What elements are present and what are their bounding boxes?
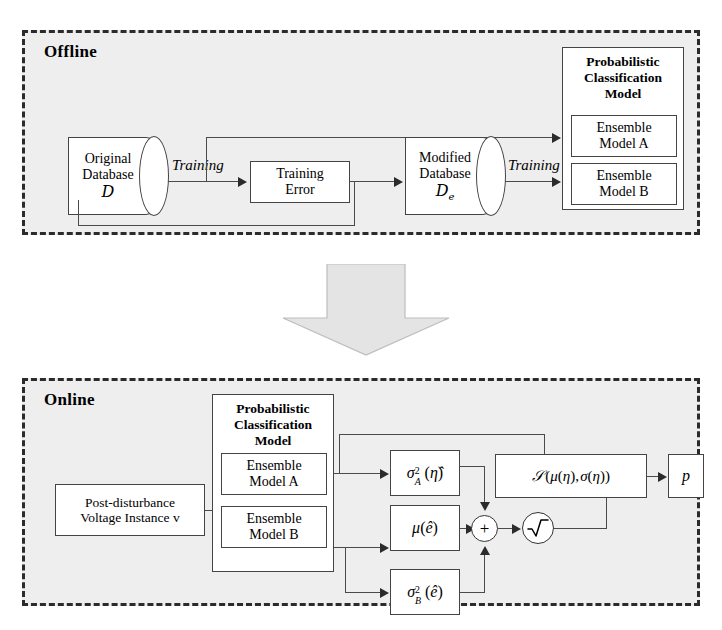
arrowhead-top-route-to-model-a	[552, 133, 561, 143]
stage-transition-arrow	[281, 264, 451, 356]
edge-label-training-1: Training	[172, 157, 224, 174]
edge-label-training-2: Training	[508, 157, 560, 174]
sigma-b-squared-box: σ2B(ê)	[390, 569, 460, 615]
edge-to-sigma-b	[345, 592, 383, 593]
mu-e-hat-box: μ(ê)	[390, 505, 460, 551]
arrowhead-sigma-a-into-sum	[480, 502, 490, 511]
riser-to-top-route	[206, 137, 207, 182]
arrowhead-normal-to-output	[658, 472, 667, 482]
edge-model-b-to-mu	[334, 547, 382, 548]
edge-top-route-to-normal	[339, 434, 545, 435]
training-error-box: Training Error	[250, 161, 350, 203]
arrowhead-modified-db-to-model-b	[552, 177, 561, 187]
edge-sqrt-out	[554, 528, 607, 529]
modified-database-cylinder: Modified Database De	[405, 137, 505, 215]
normal-distribution-box: 𝒮 (μ(η), σ(η))	[495, 454, 647, 498]
original-database-cylinder: Original Database D	[68, 137, 168, 215]
original-database-text: Original Database D	[68, 137, 148, 215]
online-model-group-title: Probabilistic Classification Model	[213, 401, 333, 449]
diagram-canvas: Offline Original Database D Training Tra…	[0, 0, 722, 630]
offline-ensemble-model-b-box: Ensemble Model B	[571, 163, 677, 205]
edge-error-to-modified-db	[350, 181, 396, 182]
summation-node: +	[471, 515, 498, 542]
riser-sqrt-to-normal	[606, 493, 607, 529]
original-database-line1: Original	[85, 151, 132, 167]
offline-model-group-title: Probabilistic Classification Model	[563, 54, 683, 102]
modified-database-symbol: De	[436, 182, 455, 203]
online-probabilistic-classification-model-group: Probabilistic Classification Model Ensem…	[212, 394, 334, 572]
edge-model-a-to-sigma-a	[334, 473, 382, 474]
online-ensemble-model-a-box: Ensemble Model A	[221, 453, 327, 495]
edge-sigma-b-out	[460, 592, 485, 593]
arrowhead-model-a-to-sigma-a	[380, 469, 389, 479]
offline-ensemble-model-a-box: Ensemble Model A	[571, 115, 677, 157]
feedback-drop-line	[354, 181, 355, 226]
modified-database-line2: Database	[419, 166, 470, 182]
post-disturbance-voltage-instance-box: Post-disturbance Voltage Instance v	[55, 484, 205, 536]
arrowhead-sum-to-sqrt	[512, 524, 521, 534]
probability-output-box: p	[668, 454, 704, 498]
sqrt-glyph	[527, 518, 549, 538]
original-database-symbol: D	[102, 183, 115, 201]
edge-sigma-a-out	[460, 466, 485, 467]
riser-sigma-b-to-sum	[484, 551, 485, 593]
drop-sigma-a-to-sum	[484, 466, 485, 506]
riser-model-a-to-normal	[339, 434, 340, 474]
arrowhead-model-b-to-mu	[380, 543, 389, 553]
square-root-node	[522, 512, 554, 544]
offline-probabilistic-classification-model-group: Probabilistic Classification Model Ensem…	[562, 47, 684, 210]
arrowhead-sigma-b-into-sum	[480, 546, 490, 555]
arrowhead-error-to-modified-db	[394, 177, 403, 187]
edge-modified-db-to-model-b	[505, 181, 554, 182]
online-stage-label: Online	[44, 390, 95, 410]
arrowhead-db-to-error	[238, 177, 247, 187]
arrowhead-to-sigma-b	[380, 588, 389, 598]
drop-model-b-to-sigma-b	[345, 547, 346, 593]
original-database-line2: Database	[82, 167, 133, 183]
drop-line-into-normal	[544, 434, 545, 456]
modified-database-line1: Modified	[419, 150, 471, 166]
online-ensemble-model-b-box: Ensemble Model B	[221, 506, 327, 548]
feedback-return-line	[78, 225, 355, 226]
sigma-a-squared-box: σ2A(η̂)	[390, 450, 460, 496]
offline-stage-label: Offline	[44, 42, 97, 62]
edge-db-to-error	[168, 181, 240, 182]
feedback-riser-into-db	[78, 200, 79, 226]
modified-database-text: Modified Database De	[405, 137, 485, 215]
